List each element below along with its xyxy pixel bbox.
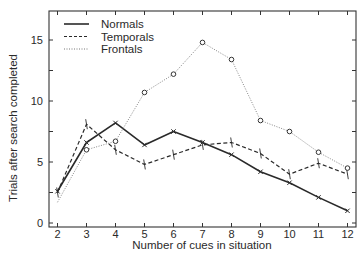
y-axis-label: Trials after search completed <box>7 54 19 202</box>
circle-marker-icon <box>171 72 176 77</box>
x-axis-label: Number of cues in situation <box>132 239 271 251</box>
x-tick-label: 12 <box>341 228 353 240</box>
legend-label-frontals: Frontals <box>101 43 143 55</box>
series-frontals <box>58 40 350 202</box>
y-tick-label: 15 <box>31 34 43 46</box>
x-tick-label: 2 <box>54 228 60 240</box>
legend-label-temporals: Temporals <box>101 31 154 43</box>
x-tick-label: 3 <box>83 228 89 240</box>
legend: Normals Temporals Frontals <box>64 18 154 55</box>
circle-marker-icon <box>142 90 147 95</box>
series-temporals <box>57 119 349 197</box>
circle-marker-icon <box>200 40 205 45</box>
circle-marker-icon <box>345 166 350 171</box>
circle-marker-icon <box>258 118 263 123</box>
line-chart: 051015 23456789101112 Normals Temporals … <box>0 0 363 262</box>
x-tick-label: 4 <box>112 228 118 240</box>
series-normals <box>55 121 349 213</box>
y-tick-label: 5 <box>37 156 43 168</box>
circle-marker-icon <box>229 57 234 62</box>
circle-marker-icon <box>113 139 118 144</box>
x-marker-icon <box>113 121 117 125</box>
series-line <box>58 123 348 211</box>
series-line <box>58 42 348 202</box>
y-tick-label: 0 <box>37 217 43 229</box>
x-tick-label: 10 <box>283 228 295 240</box>
series-line <box>58 124 348 192</box>
y-axis-ticks: 051015 <box>31 34 356 229</box>
x-tick-label: 11 <box>313 228 324 240</box>
data-series <box>55 40 350 213</box>
legend-label-normals: Normals <box>101 18 144 30</box>
x-axis-ticks: 23456789101112 <box>54 11 353 240</box>
circle-marker-icon <box>84 148 89 153</box>
y-tick-label: 10 <box>31 95 43 107</box>
circle-marker-icon <box>316 150 321 155</box>
circle-marker-icon <box>287 129 292 134</box>
